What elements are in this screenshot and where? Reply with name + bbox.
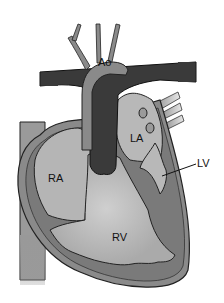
label-right-atrium: RA	[48, 172, 64, 184]
label-left-ventricle: LV	[197, 157, 210, 169]
label-left-atrium: LA	[130, 132, 144, 144]
label-aorta: Ao	[98, 56, 111, 68]
label-right-ventricle: RV	[112, 231, 128, 243]
heart-diagram: Ao LA LV RA RV	[0, 0, 224, 303]
